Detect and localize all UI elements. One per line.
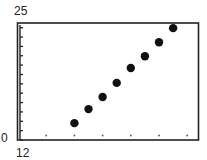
data-point <box>70 119 78 127</box>
data-points <box>70 24 177 127</box>
scatter-plot <box>0 0 207 160</box>
x-tick <box>102 135 104 137</box>
data-point <box>155 38 163 46</box>
x-tick <box>158 135 160 137</box>
x-axis-ticks <box>45 135 188 137</box>
data-point <box>113 79 121 87</box>
x-tick <box>45 135 47 137</box>
data-point <box>141 52 149 60</box>
data-point <box>169 24 177 32</box>
data-point <box>127 64 135 72</box>
x-tick <box>186 135 188 137</box>
x-tick <box>74 135 76 137</box>
x-tick <box>130 135 132 137</box>
plot-frame <box>18 23 199 140</box>
data-point <box>98 93 106 101</box>
data-point <box>84 105 92 113</box>
